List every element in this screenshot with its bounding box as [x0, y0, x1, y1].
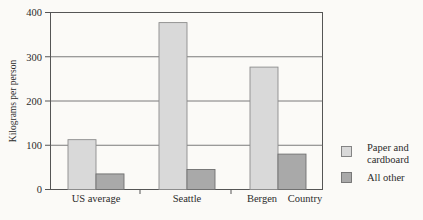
bar-paper-seattle — [159, 23, 187, 190]
legend-swatch-paper — [342, 147, 352, 157]
ytick-label-0: 0 — [37, 184, 42, 195]
bar-other-seattle — [187, 170, 215, 190]
legend-label-paper-line2: cardboard — [367, 154, 410, 165]
bar-paper-bergen-country — [250, 67, 278, 189]
legend-label-paper-line1: Paper and — [367, 142, 409, 153]
ytick-label-100: 100 — [26, 140, 42, 151]
legend-label-other: All other — [367, 172, 405, 183]
category-label-us-average: US average — [72, 193, 121, 204]
category-label-country: Country — [288, 193, 323, 204]
category-label-bergen: Bergen — [247, 193, 278, 204]
legend: Paper and cardboard All other — [342, 142, 410, 183]
category-label-seattle: Seattle — [173, 193, 202, 204]
legend-swatch-other — [342, 173, 352, 183]
ytick-label-200: 200 — [26, 96, 42, 107]
ytick-label-400: 400 — [26, 7, 42, 18]
bar-chart: 400 300 200 100 0 Kilograms per person U… — [0, 0, 423, 220]
bar-other-bergen-country — [278, 154, 306, 189]
chart-svg: 400 300 200 100 0 Kilograms per person U… — [0, 0, 423, 220]
bar-other-us-average — [96, 174, 124, 190]
ytick-label-300: 300 — [26, 52, 42, 63]
bar-paper-us-average — [68, 140, 96, 190]
y-axis-title: Kilograms per person — [8, 60, 18, 143]
